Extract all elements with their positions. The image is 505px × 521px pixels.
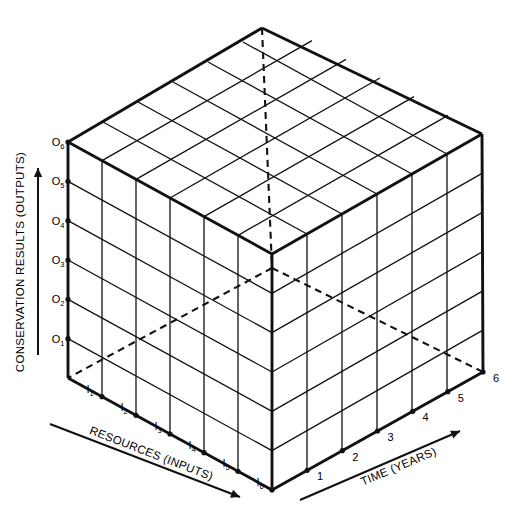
vertical-axis-tick-4 <box>65 218 70 223</box>
time-tick-label-1: 1 <box>317 470 323 482</box>
time-axis-tick-1 <box>305 468 310 473</box>
resources-tick-label-3: I3 <box>154 420 161 435</box>
vertical-tick-label-4: O4 <box>52 215 65 230</box>
vertical-axis-tick-6 <box>65 139 70 144</box>
time-axis-tick-5 <box>445 389 450 394</box>
top-face-gridline-u4 <box>136 59 346 179</box>
isometric-cube-figure: O1O2O3O4O5O6I1I2I3I4I5I6123456CONSERVATI… <box>0 0 505 521</box>
vertical-axis-tick-5 <box>65 179 70 184</box>
resources-axis-tick-6 <box>269 487 274 492</box>
vertical-tick-label-3: O3 <box>52 254 65 269</box>
time-axis-tick-4 <box>410 409 415 414</box>
vertical-axis-tick-1 <box>65 336 70 341</box>
resources-axis-tick-4 <box>201 450 206 455</box>
time-axis-tick-6 <box>480 369 485 374</box>
resources-axis-title: RESOURCES (INPUTS) <box>88 424 215 482</box>
resources-axis-arrow <box>50 424 240 498</box>
resources-axis-tick-1 <box>99 394 104 399</box>
resources-axis-tick-5 <box>235 469 240 474</box>
time-axis-tick-3 <box>375 428 380 433</box>
time-axis-title: TIME (YEARS) <box>359 445 438 488</box>
resources-tick-label-5: I5 <box>222 457 229 472</box>
resources-tick-label-4: I4 <box>188 439 195 454</box>
vertical-tick-label-6: O6 <box>52 136 65 151</box>
cube-svg: O1O2O3O4O5O6I1I2I3I4I5I6123456CONSERVATI… <box>0 0 505 521</box>
resources-axis-tick-2 <box>133 413 138 418</box>
time-tick-label-4: 4 <box>423 411 429 423</box>
time-tick-label-5: 5 <box>458 392 464 404</box>
resources-tick-label-1: I1 <box>86 383 93 398</box>
vertical-axis-tick-2 <box>65 297 70 302</box>
vertical-tick-label-2: O2 <box>52 293 65 308</box>
time-tick-label-2: 2 <box>352 451 358 463</box>
vertical-axis-tick-3 <box>65 257 70 262</box>
time-axis-arrow <box>300 431 460 500</box>
time-tick-label-3: 3 <box>387 431 393 443</box>
vertical-tick-label-5: O5 <box>52 175 65 190</box>
resources-tick-label-2: I2 <box>120 401 127 416</box>
time-tick-label-6: 6 <box>493 372 499 384</box>
resources-axis-tick-3 <box>167 431 172 436</box>
vertical-axis-arrow <box>34 168 42 355</box>
edge-apex-to-right-top <box>262 28 482 134</box>
vertical-axis-title: CONSERVATION RESULTS (OUTPUTS) <box>14 152 26 372</box>
time-axis-tick-2 <box>340 448 345 453</box>
edge-right-vertical <box>482 134 483 372</box>
vertical-tick-label-1: O1 <box>52 333 65 348</box>
resources-tick-label-6: I6 <box>256 476 263 491</box>
